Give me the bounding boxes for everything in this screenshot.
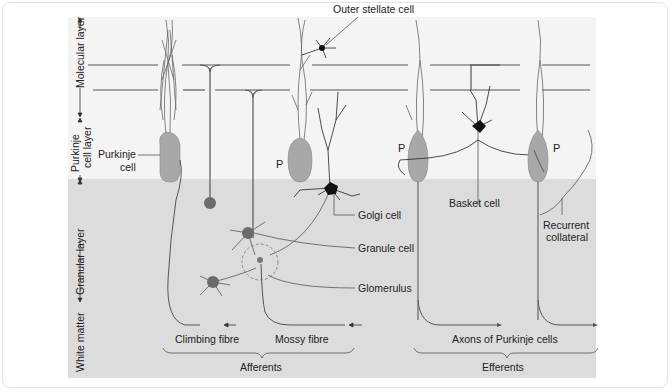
label-purkinje-2: cell <box>120 161 136 173</box>
layer-label-white-matter: White matter <box>74 312 86 372</box>
layer-label-purkinje-2: cell layer <box>81 126 93 168</box>
label-basket: Basket cell <box>449 197 500 209</box>
label-glomerulus: Glomerulus <box>358 282 412 294</box>
label-climbing-fibre: Climbing fibre <box>175 333 239 345</box>
label-golgi: Golgi cell <box>358 209 401 221</box>
label-axons-purkinje: Axons of Purkinje cells <box>452 333 558 345</box>
label-p-3: P <box>553 142 560 154</box>
cerebellar-cortex-diagram: Molecular layer Purkinje cell layer Gran… <box>0 0 670 392</box>
label-outer-stellate: Outer stellate cell <box>333 3 414 15</box>
label-granule: Granule cell <box>358 242 414 254</box>
layer-label-purkinje-1: Purkinje <box>69 134 81 172</box>
label-efferents: Efferents <box>482 361 524 373</box>
label-p-1: P <box>276 158 283 170</box>
lower-layer-background <box>68 179 596 378</box>
label-afferents: Afferents <box>240 361 282 373</box>
label-recurrent-1: Recurrent <box>543 219 589 231</box>
granule-axon-terminal <box>204 197 216 209</box>
label-purkinje-1: Purkinje <box>98 148 136 160</box>
label-mossy-fibre: Mossy fibre <box>275 333 329 345</box>
layer-label-molecular: Molecular layer <box>74 16 86 88</box>
label-p-2: P <box>398 142 405 154</box>
layer-label-granular: Granular layer <box>74 228 86 295</box>
label-recurrent-2: collateral <box>546 231 588 243</box>
